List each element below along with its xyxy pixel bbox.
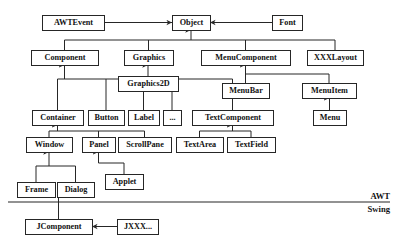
class-box-label-ellipsis: ... bbox=[169, 113, 175, 122]
class-box-label-object: Object bbox=[180, 18, 204, 27]
class-box-label-window: Window bbox=[35, 140, 65, 149]
class-box-label-dialog: Dialog bbox=[65, 185, 89, 194]
class-box-jxxx[interactable]: JXXX... bbox=[118, 220, 159, 235]
class-box-label-menu: Menu bbox=[320, 113, 341, 122]
diagram-canvas: AWTEventObjectFontComponentGraphicsMenuC… bbox=[0, 0, 396, 247]
awt-label: AWT bbox=[370, 191, 390, 201]
class-box-label-xxxlayout: XXXLayout bbox=[314, 53, 357, 62]
class-box-textarea[interactable]: TextArea bbox=[177, 138, 224, 153]
edge-bus-to-object bbox=[65, 30, 336, 50]
class-box-label-graphics: Graphics bbox=[133, 53, 165, 62]
class-box-label-textcomponent: TextComponent bbox=[205, 113, 261, 122]
class-box-jcomponent[interactable]: JComponent bbox=[26, 220, 93, 235]
class-box-panel[interactable]: Panel bbox=[83, 138, 116, 153]
class-box-awtevent[interactable]: AWTEvent bbox=[43, 16, 105, 31]
class-box-xxxlayout[interactable]: XXXLayout bbox=[308, 51, 364, 66]
class-box-label-awtevent: AWTEvent bbox=[54, 18, 93, 27]
class-box-textcomponent[interactable]: TextComponent bbox=[193, 111, 274, 126]
edge-bus-to-menucomponent bbox=[246, 65, 330, 83]
edge-bus-to-panel bbox=[99, 152, 125, 174]
class-box-dialog[interactable]: Dialog bbox=[58, 183, 95, 198]
class-box-ellipsis[interactable]: ... bbox=[164, 111, 182, 126]
class-box-component[interactable]: Component bbox=[32, 51, 99, 66]
class-box-graphics[interactable]: Graphics bbox=[125, 51, 174, 66]
class-box-font[interactable]: Font bbox=[273, 16, 303, 31]
class-box-menucomponent[interactable]: MenuComponent bbox=[202, 51, 291, 66]
class-box-textfield[interactable]: TextField bbox=[228, 138, 276, 153]
class-box-scrollpane[interactable]: ScrollPane bbox=[119, 138, 172, 153]
class-box-label-scrollpane: ScrollPane bbox=[126, 140, 164, 149]
class-box-label-font: Font bbox=[279, 18, 296, 27]
class-box-button[interactable]: Button bbox=[89, 111, 125, 126]
class-box-label-menubar: MenuBar bbox=[229, 86, 263, 95]
class-box-label-menuitem: MenuItem bbox=[311, 86, 348, 95]
class-box-menuitem[interactable]: MenuItem bbox=[303, 84, 357, 99]
class-box-label-textfield: TextField bbox=[235, 140, 268, 149]
class-box-label-button: Button bbox=[94, 113, 119, 122]
class-box-label-container: Container bbox=[40, 113, 76, 122]
class-box-frame[interactable]: Frame bbox=[18, 183, 56, 198]
class-box-label-panel: Panel bbox=[89, 140, 109, 149]
class-box-window[interactable]: Window bbox=[27, 138, 73, 153]
class-box-graphics2d[interactable]: Graphics2D bbox=[119, 77, 179, 92]
class-box-label-jcomponent: JComponent bbox=[36, 222, 81, 231]
class-box-label-graphics2d: Graphics2D bbox=[127, 79, 169, 88]
edge-bus-to-window bbox=[36, 152, 76, 182]
class-box-applet[interactable]: Applet bbox=[106, 175, 144, 190]
class-box-menu[interactable]: Menu bbox=[314, 111, 347, 126]
class-box-label-textarea: TextArea bbox=[184, 140, 216, 149]
edge-bus-to-textcomponent bbox=[200, 125, 252, 137]
edge-bus-to-container bbox=[49, 125, 145, 137]
class-box-label-component: Component bbox=[45, 53, 86, 62]
class-box-container[interactable]: Container bbox=[33, 111, 84, 126]
class-box-menubar[interactable]: MenuBar bbox=[223, 84, 270, 99]
class-box-label-frame: Frame bbox=[25, 185, 49, 194]
class-box-label[interactable]: Label bbox=[129, 111, 160, 126]
class-box-label-label: Label bbox=[134, 113, 155, 122]
class-hierarchy-diagram: AWTEventObjectFontComponentGraphicsMenuC… bbox=[0, 0, 396, 247]
class-box-label-menucomponent: MenuComponent bbox=[215, 53, 277, 62]
class-box-label-jxxx: JXXX... bbox=[124, 222, 152, 231]
swing-label: Swing bbox=[368, 204, 391, 214]
class-box-label-applet: Applet bbox=[113, 177, 137, 186]
class-box-object[interactable]: Object bbox=[173, 16, 211, 31]
